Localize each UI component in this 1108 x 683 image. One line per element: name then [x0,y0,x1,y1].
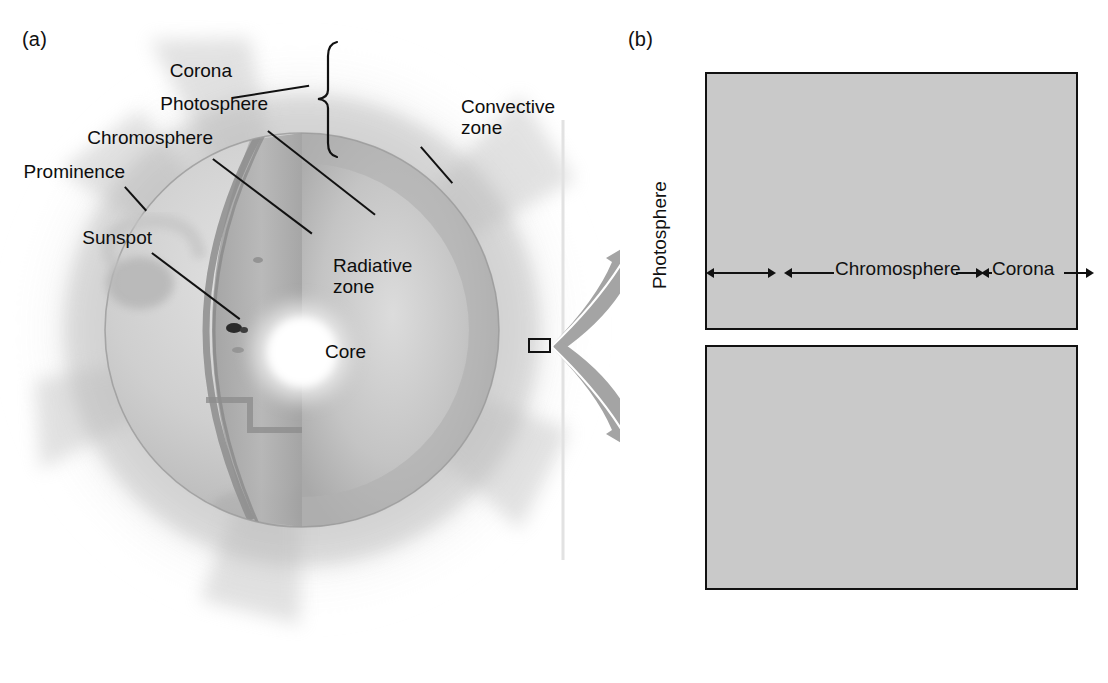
region-label-photosphere: Photosphere [649,175,671,295]
temperature-chart-plot-area [705,345,1078,590]
span-chromosphere-arrow-left [784,268,792,278]
label-prominence: Prominence [10,161,125,182]
label-chromosphere: Chromosphere [14,127,213,148]
temperature-curve [707,347,1076,588]
density-chart-plot-area [705,72,1078,330]
label-radiative-zone-line1: Radiative [333,255,412,276]
region-label-chromosphere: Chromosphere [835,258,961,280]
label-radiative-zone: Radiative zone [333,255,412,298]
density-curve [707,74,1076,328]
label-radiative-zone-line2: zone [333,276,374,297]
span-chromosphere-left [790,272,834,274]
panel-b-tag: (b) [628,28,653,51]
span-photosphere [712,272,772,274]
span-photosphere-arrow-left [706,268,714,278]
label-convective-zone: Convective zone [461,96,555,139]
label-corona: Corona [36,60,232,81]
label-sunspot: Sunspot [10,227,152,248]
figure-root: (a) [0,0,1108,683]
span-corona-arrow-right [1086,268,1094,278]
panel-b-charts: (b) Photosphere Chromosphere Corona [620,0,1108,683]
label-convective-zone-line2: zone [461,117,502,138]
span-corona-arrow-left [981,268,989,278]
region-label-corona: Corona [992,258,1054,280]
label-convective-zone-line1: Convective [461,96,555,117]
span-photosphere-arrow-right [768,268,776,278]
label-photosphere: Photosphere [36,93,268,114]
panel-a-sun-diagram: (a) [0,0,620,683]
label-core: Core [325,341,366,362]
